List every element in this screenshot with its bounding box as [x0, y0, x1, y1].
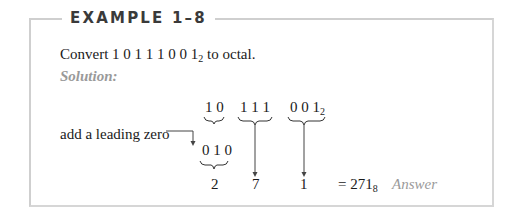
leading-zero-arrow [166, 131, 193, 143]
diagram-lines [0, 0, 522, 220]
arrowhead-group-2-icon [253, 172, 258, 177]
underbrace-group-3 [288, 117, 325, 125]
underbrace-group-1 [204, 117, 224, 124]
underbrace-group-2 [238, 117, 272, 125]
leading-zero-arrowhead-icon [191, 141, 196, 146]
underbrace-padded-group [200, 161, 228, 169]
arrowhead-group-3-icon [302, 172, 307, 177]
